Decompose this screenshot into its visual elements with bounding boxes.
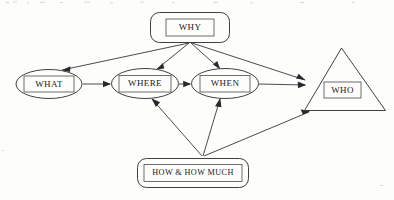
edge-how-where: [151, 98, 202, 156]
edge-when-who: [259, 82, 306, 89]
node-who[interactable]: WHO: [305, 48, 386, 111]
node-why[interactable]: WHY: [151, 13, 230, 43]
edge-layer: [62, 43, 311, 156]
who-outer-shape: [305, 48, 386, 111]
diagram-svg: WHY WHAT WHERE WHEN WHO: [0, 0, 394, 200]
node-what[interactable]: WHAT: [16, 70, 82, 99]
node-where[interactable]: WHERE: [112, 69, 179, 99]
node-label-why: WHY: [179, 22, 202, 32]
edge-how-who: [204, 109, 310, 156]
node-label-where: WHERE: [128, 78, 162, 88]
node-label-what: WHAT: [35, 79, 63, 89]
node-label-who: WHO: [331, 85, 354, 95]
edge-why-what: [62, 43, 190, 72]
node-label-when: WHEN: [211, 78, 240, 88]
edge-where-when: [179, 81, 191, 88]
node-when[interactable]: WHEN: [192, 69, 259, 99]
node-label-how: HOW & HOW MUCH: [152, 168, 234, 177]
edge-why-when: [191, 43, 220, 69]
edge-what-where: [83, 81, 111, 88]
node-how[interactable]: HOW & HOW MUCH: [138, 159, 249, 188]
edge-why-where: [157, 43, 189, 69]
diagram-canvas: WHY WHAT WHERE WHEN WHO: [0, 0, 394, 200]
edge-how-when: [203, 98, 221, 156]
